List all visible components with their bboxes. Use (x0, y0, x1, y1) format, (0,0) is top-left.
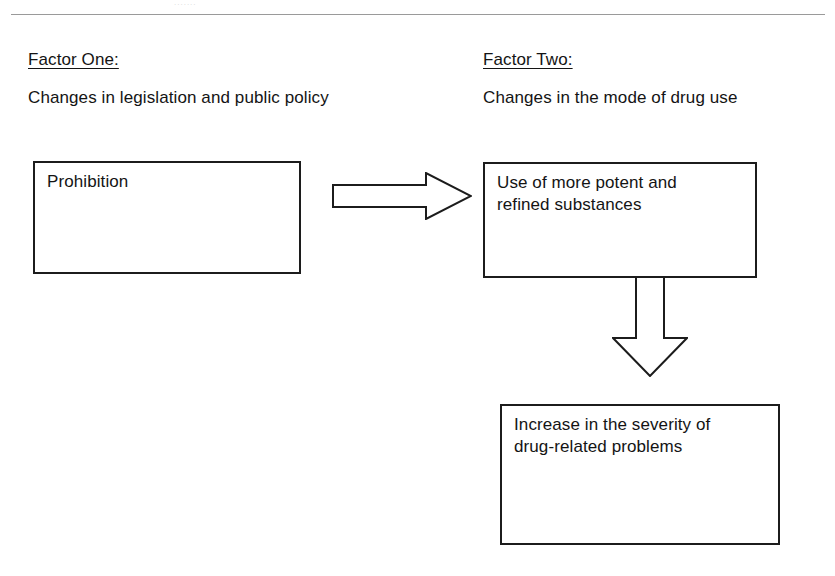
factor-two-subtitle: Changes in the mode of drug use (483, 87, 738, 108)
box-potent-substances-label: Use of more potent and refined substance… (497, 172, 747, 216)
factor-one-subtitle: Changes in legislation and public policy (28, 87, 329, 108)
box-potent-substances: Use of more potent and refined substance… (483, 162, 757, 278)
header-rule (11, 14, 825, 15)
arrow-right-icon (332, 172, 472, 220)
factor-two-heading: Factor Two: (483, 50, 573, 70)
box-severity-problems-label: Increase in the severity of drug-related… (514, 414, 770, 458)
arrow-down-icon (612, 277, 688, 377)
box-severity-problems: Increase in the severity of drug-related… (500, 404, 780, 545)
diagram-page: ....... Factor One: Changes in legislati… (0, 0, 835, 576)
box-prohibition-label: Prohibition (47, 171, 291, 193)
box-prohibition: Prohibition (33, 161, 301, 274)
factor-one-heading: Factor One: (28, 50, 119, 70)
faint-running-head: ....... (174, 0, 232, 6)
